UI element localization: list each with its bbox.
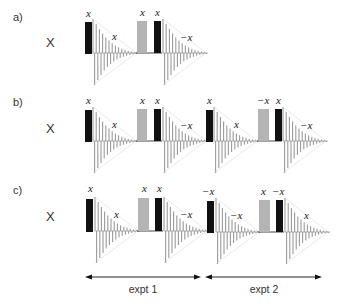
fid1-phase-label: x — [113, 208, 119, 220]
fid2-phase-label: −x — [180, 119, 192, 131]
hard-pulse-1 — [85, 22, 92, 54]
fid-1 — [95, 197, 140, 263]
fid-1 — [93, 107, 138, 173]
soft-pulse-phase-label: x — [260, 185, 266, 197]
row-label: b) — [13, 96, 23, 108]
pulse1-phase-label: x — [87, 182, 93, 194]
receiver-phase-label: X — [46, 209, 55, 224]
hard-pulse-1 — [207, 201, 214, 233]
phase-cycling-diagram: a) X x x x x −x b) X x x x x — [0, 0, 340, 308]
fid2-phase-label: x — [303, 209, 309, 221]
soft-pulse-phase-label: x — [139, 94, 145, 106]
row-a: a) X x x x x −x — [13, 6, 208, 85]
pulse2-phase-label: x — [154, 94, 160, 106]
span-expt1: expt 1 — [85, 275, 201, 296]
hard-pulse-2 — [154, 21, 161, 53]
fid1-phase-label: x — [111, 118, 117, 130]
row-label: a) — [13, 11, 23, 23]
arrow-left-icon — [205, 275, 212, 280]
pulse1-phase-label: x — [206, 94, 212, 106]
hard-pulse-2 — [275, 109, 282, 141]
fid-1 — [214, 107, 259, 173]
pulse1-phase-label: x — [85, 94, 91, 106]
soft-pulse — [138, 198, 149, 231]
fid2-phase-label: −x — [300, 119, 312, 131]
fid2-phase-label: −x — [180, 208, 192, 220]
soft-pulse — [259, 200, 270, 232]
receiver-phase-label: X — [46, 35, 55, 50]
pulse1-phase-label: x — [85, 7, 91, 19]
fid-1 — [93, 19, 138, 85]
soft-pulse-phase-label: x — [139, 6, 145, 18]
fid-2 — [163, 107, 208, 173]
fid-2 — [163, 19, 208, 85]
fid1-phase-label: x — [111, 30, 117, 42]
pulse2-phase-label: x — [156, 182, 162, 194]
soft-pulse — [137, 109, 147, 141]
pulse-sequence-expt2: −x −x x −x x — [202, 185, 330, 264]
pulse2-phase-label: x — [154, 6, 160, 18]
fid1-phase-label: −x — [230, 209, 242, 221]
pulse-sequence-expt1: x x x x −x — [86, 182, 209, 263]
arrow-right-icon — [194, 275, 201, 280]
span-label: expt 1 — [129, 283, 158, 295]
pulse-sequence-expt1: x x x x −x — [85, 94, 208, 173]
hard-pulse-2 — [154, 109, 161, 141]
hard-pulse-2 — [155, 198, 162, 231]
row-c: c) X x x x x −x −x −x x −x x — [13, 182, 330, 264]
hard-pulse-1 — [206, 110, 213, 142]
pulse-sequence-expt2: x x −x x −x — [206, 94, 328, 173]
pulse2-phase-label: −x — [272, 185, 284, 197]
hard-pulse-2 — [276, 200, 283, 232]
soft-pulse — [137, 21, 147, 53]
soft-pulse — [258, 109, 269, 141]
row-label: c) — [13, 184, 22, 196]
row-b: b) X x x x x −x x x −x x −x — [13, 94, 328, 173]
hard-pulse-1 — [86, 199, 93, 232]
pulse-sequence-expt1: x x x x −x — [85, 6, 208, 85]
span-label: expt 2 — [250, 283, 279, 295]
receiver-phase-label: X — [46, 121, 55, 136]
fid2-phase-label: −x — [180, 31, 192, 43]
hard-pulse-1 — [85, 110, 92, 142]
fid-2 — [285, 198, 330, 264]
fid-2 — [283, 107, 328, 173]
pulse1-phase-label: −x — [202, 185, 214, 197]
fid-2 — [164, 197, 209, 263]
pulse2-phase-label: x — [275, 94, 281, 106]
fid-1 — [216, 198, 261, 264]
span-expt2: expt 2 — [205, 275, 322, 296]
soft-pulse-phase-label: x — [141, 182, 147, 194]
arrow-right-icon — [315, 275, 322, 280]
fid1-phase-label: x — [233, 118, 239, 130]
soft-pulse-phase-label: −x — [257, 94, 269, 106]
arrow-left-icon — [85, 275, 92, 280]
